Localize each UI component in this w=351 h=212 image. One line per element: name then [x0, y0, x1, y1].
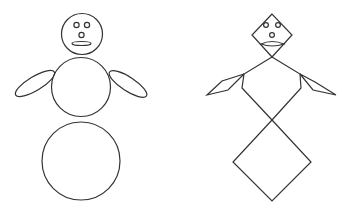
snowman-left-eye	[74, 22, 79, 27]
snowman-right-eye	[84, 22, 89, 27]
diagram-canvas	[0, 0, 351, 212]
diamond-nose	[270, 33, 275, 38]
snowman-head	[62, 14, 103, 55]
snowman-figure	[12, 14, 150, 201]
diamond-body	[242, 57, 301, 120]
diamond-left-arm	[207, 74, 244, 95]
diamond-right-arm	[300, 74, 336, 95]
diamond-base	[233, 120, 311, 201]
snowman-left-arm	[12, 66, 58, 101]
diamond-figure	[207, 14, 336, 201]
snowman-body	[52, 58, 111, 117]
snowman-mouth	[72, 42, 91, 46]
snowman-nose	[79, 32, 84, 37]
snowman-base	[42, 122, 120, 200]
diamond-mouth	[261, 42, 284, 47]
diamond-right-eye	[276, 23, 281, 28]
snowman-right-arm	[106, 66, 151, 102]
diamond-head	[252, 14, 292, 57]
diamond-left-eye	[264, 23, 269, 28]
